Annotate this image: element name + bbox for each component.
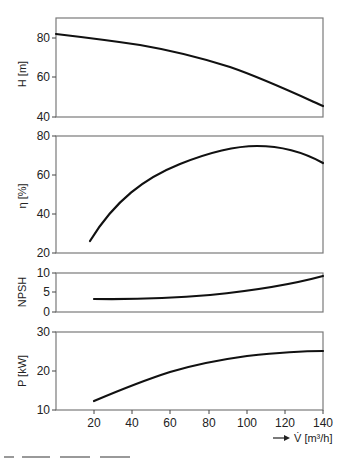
- head-panel: 80 60 40 H [m]: [16, 18, 323, 124]
- npsh-panel: 10 5 0 NPSH: [16, 266, 323, 319]
- head-curve: [56, 34, 323, 106]
- x-tick-120: 120: [275, 416, 295, 430]
- x-tick-80: 80: [202, 416, 216, 430]
- npsh-plot-frame: [56, 273, 323, 312]
- npsh-tick-5: 5: [43, 285, 50, 299]
- npsh-tick-0: 0: [43, 305, 50, 319]
- efficiency-plot-frame: [56, 136, 323, 253]
- efficiency-tick-20: 20: [37, 246, 51, 260]
- power-axis-label: P [kW]: [16, 355, 28, 387]
- power-tick-10: 10: [37, 403, 51, 417]
- power-panel: 30 20 10 P [kW] 20 40 60 80 100 120 140 …: [16, 325, 333, 444]
- efficiency-tick-80: 80: [37, 129, 51, 143]
- x-tick-100: 100: [237, 416, 257, 430]
- head-plot-frame: [56, 18, 323, 117]
- power-plot-frame: [56, 332, 323, 410]
- efficiency-tick-40: 40: [37, 207, 51, 221]
- npsh-tick-10: 10: [37, 266, 51, 280]
- power-tick-20: 20: [37, 364, 51, 378]
- x-axis-label: V̇ [m³/h]: [273, 432, 333, 444]
- head-tick-40: 40: [37, 110, 51, 124]
- x-axis-label-text: V̇ [m³/h]: [294, 432, 333, 444]
- power-curve: [94, 351, 323, 401]
- head-axis-label: H [m]: [16, 61, 28, 87]
- x-tick-20: 20: [87, 416, 101, 430]
- npsh-curve: [94, 276, 323, 299]
- efficiency-axis-label: η [%]: [16, 183, 28, 208]
- pump-characteristic-chart: 80 60 40 H [m] 80 60 40 20 η [%] 10 5 0 …: [0, 0, 346, 458]
- clipped-caption: [4, 452, 184, 458]
- efficiency-tick-60: 60: [37, 168, 51, 182]
- power-tick-30: 30: [37, 325, 51, 339]
- head-tick-80: 80: [37, 31, 51, 45]
- x-tick-140: 140: [313, 416, 333, 430]
- efficiency-curve: [90, 146, 323, 241]
- x-tick-40: 40: [125, 416, 139, 430]
- npsh-axis-label: NPSH: [16, 277, 28, 308]
- efficiency-panel: 80 60 40 20 η [%]: [16, 129, 323, 260]
- head-tick-60: 60: [37, 70, 51, 84]
- x-tick-60: 60: [163, 416, 177, 430]
- arrow-head-icon: [284, 435, 290, 441]
- clipped-caption-glyphs: [4, 452, 184, 458]
